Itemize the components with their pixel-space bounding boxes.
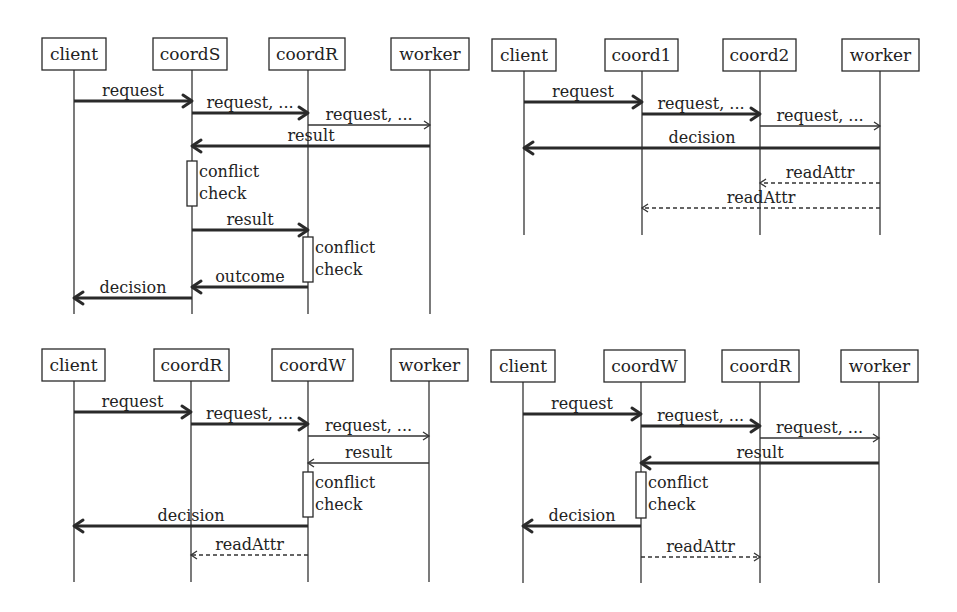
message-decision: decision bbox=[74, 278, 192, 304]
message-label: request bbox=[551, 394, 613, 413]
participant-label: coord2 bbox=[730, 45, 790, 65]
message-request: request, ... bbox=[641, 406, 760, 432]
message-label: decision bbox=[99, 278, 166, 297]
activation-conflict-check: conflictcheck bbox=[303, 472, 376, 517]
participant-worker: worker bbox=[841, 350, 918, 382]
participant-label: worker bbox=[399, 355, 461, 375]
message-readattr: readAttr bbox=[191, 535, 308, 559]
message-label: decision bbox=[548, 506, 615, 525]
message-label: request, ... bbox=[206, 93, 293, 112]
message-result: result bbox=[192, 210, 308, 236]
participant-coordW: coordW bbox=[604, 350, 685, 382]
message-label: result bbox=[736, 443, 784, 462]
message-label: decision bbox=[157, 506, 224, 525]
participant-label: coordR bbox=[730, 356, 793, 376]
participant-coordW: coordW bbox=[272, 349, 353, 381]
message-label: result bbox=[226, 210, 274, 229]
message-outcome: outcome bbox=[192, 267, 308, 293]
activation-conflict-check: conflictcheck bbox=[187, 161, 260, 206]
participant-client: client bbox=[492, 39, 556, 71]
message-label: request, ... bbox=[657, 406, 744, 425]
message-label: readAttr bbox=[727, 188, 796, 207]
activation-bar bbox=[303, 237, 313, 282]
participant-coordS: coordS bbox=[153, 38, 227, 70]
message-label: result bbox=[287, 126, 335, 145]
message-request: request, ... bbox=[192, 93, 308, 119]
sequence-diagram-top-left: clientcoordScoordRworkerconflictcheckcon… bbox=[42, 38, 469, 314]
message-label: outcome bbox=[215, 267, 285, 286]
activation-bar bbox=[636, 472, 646, 518]
participant-client: client bbox=[42, 349, 105, 381]
participant-label: worker bbox=[850, 45, 912, 65]
message-result: result bbox=[308, 443, 429, 467]
message-label: decision bbox=[668, 128, 735, 147]
message-readattr: readAttr bbox=[760, 163, 880, 187]
message-label: request, ... bbox=[206, 404, 293, 423]
message-label: request bbox=[552, 82, 614, 101]
participant-worker: worker bbox=[391, 38, 469, 70]
participant-label: client bbox=[500, 45, 548, 65]
activation-conflict-check: conflictcheck bbox=[636, 472, 709, 518]
participant-label: client bbox=[49, 355, 97, 375]
participant-label: coordW bbox=[279, 355, 346, 375]
activation-note: check bbox=[315, 495, 363, 514]
message-request: request, ... bbox=[308, 416, 429, 440]
participant-coordR: coordR bbox=[269, 38, 345, 70]
activation-note: conflict bbox=[199, 162, 260, 181]
participant-coord2: coord2 bbox=[723, 39, 796, 71]
activation-note: conflict bbox=[315, 238, 376, 257]
participant-coordR: coordR bbox=[722, 350, 799, 382]
participant-worker: worker bbox=[391, 349, 468, 381]
participant-label: coordR bbox=[276, 44, 339, 64]
participant-label: worker bbox=[849, 356, 911, 376]
message-label: request, ... bbox=[776, 106, 863, 125]
participant-label: coordR bbox=[161, 355, 224, 375]
message-label: request, ... bbox=[325, 416, 412, 435]
message-label: request, ... bbox=[657, 94, 744, 113]
activation-bar bbox=[303, 472, 313, 517]
message-label: readAttr bbox=[215, 535, 284, 554]
message-label: readAttr bbox=[666, 537, 735, 556]
message-request: request bbox=[74, 81, 192, 107]
participant-label: coord1 bbox=[612, 45, 672, 65]
participant-client: client bbox=[491, 350, 555, 382]
participant-worker: worker bbox=[842, 39, 919, 71]
message-request: request, ... bbox=[191, 404, 308, 430]
message-request: request, ... bbox=[760, 106, 880, 130]
message-request: request bbox=[524, 82, 642, 108]
participant-label: coordW bbox=[611, 356, 678, 376]
participant-coordR: coordR bbox=[154, 349, 229, 381]
message-label: request, ... bbox=[325, 105, 412, 124]
message-label: request bbox=[102, 81, 164, 100]
message-label: request bbox=[102, 392, 164, 411]
message-label: readAttr bbox=[786, 163, 855, 182]
message-decision: decision bbox=[524, 128, 880, 154]
message-label: request, ... bbox=[776, 418, 863, 437]
activation-bar bbox=[187, 161, 197, 206]
participant-label: coordS bbox=[160, 44, 221, 64]
activation-note: check bbox=[648, 495, 696, 514]
message-decision: decision bbox=[523, 506, 641, 532]
sequence-diagram-bottom-right: clientcoordWcoordRworkerconflictcheckreq… bbox=[491, 350, 918, 583]
sequence-diagram-bottom-left: clientcoordRcoordWworkerconflictcheckreq… bbox=[42, 349, 468, 582]
message-readattr: readAttr bbox=[641, 537, 760, 561]
message-result: result bbox=[192, 126, 430, 152]
activation-note: conflict bbox=[315, 473, 376, 492]
participant-client: client bbox=[42, 38, 106, 70]
message-request: request, ... bbox=[760, 418, 879, 442]
participant-label: client bbox=[50, 44, 98, 64]
message-request: request bbox=[74, 392, 191, 418]
message-label: result bbox=[345, 443, 393, 462]
message-readattr: readAttr bbox=[642, 188, 880, 212]
message-request: request, ... bbox=[642, 94, 760, 120]
sequence-diagram-top-right: clientcoord1coord2workerrequestrequest, … bbox=[492, 39, 919, 235]
sequence-diagrams-canvas: clientcoordScoordRworkerconflictcheckcon… bbox=[0, 0, 957, 612]
activation-conflict-check: conflictcheck bbox=[303, 237, 376, 282]
activation-note: check bbox=[199, 184, 247, 203]
participant-label: client bbox=[499, 356, 547, 376]
message-request: request bbox=[523, 394, 641, 420]
participant-coord1: coord1 bbox=[605, 39, 678, 71]
activation-note: conflict bbox=[648, 473, 709, 492]
participant-label: worker bbox=[399, 44, 461, 64]
activation-note: check bbox=[315, 260, 363, 279]
